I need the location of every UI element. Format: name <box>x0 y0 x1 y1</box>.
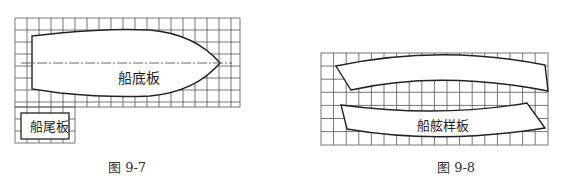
transom-plate-label: 船尾板 <box>30 119 69 134</box>
upper-gunwale-shape <box>336 55 548 91</box>
gunwale-template-label: 船舷样板 <box>417 118 469 133</box>
caption-fig-9-7: 图 9-7 <box>108 157 146 176</box>
caption-fig-9-8: 图 9-8 <box>437 157 475 176</box>
bottom-plate-label: 船底板 <box>118 70 160 86</box>
diagram-canvas: 船底板 船尾板 船舷样板 <box>0 0 565 182</box>
